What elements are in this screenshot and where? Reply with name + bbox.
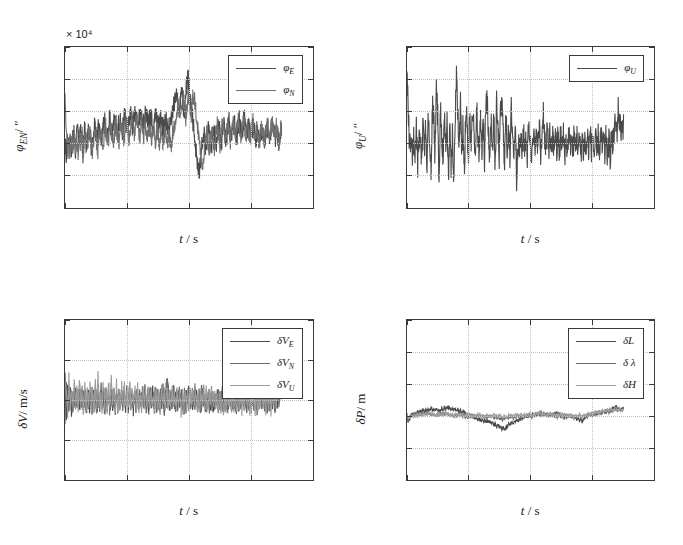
- plot-area-delta-v: δVE δVN δVU -2-1012050100150200: [64, 319, 314, 482]
- x-tick-mark: [189, 47, 190, 52]
- y-tick-mark: [65, 360, 70, 361]
- legend-item: δVU: [230, 378, 295, 393]
- gridline-vertical: [189, 320, 190, 481]
- x-axis-label: t / s: [64, 231, 314, 247]
- legend-item: φE: [236, 61, 294, 76]
- y-tick-mark: [308, 440, 313, 441]
- panel-delta-v: δV/ m/s δVE δVN δVU -2-1012050100150200: [0, 273, 342, 545]
- y-tick-mark: [649, 352, 654, 353]
- y-axis-label: φEN/ ″: [11, 121, 29, 152]
- x-tick-mark: [127, 203, 128, 208]
- x-tick-mark: [251, 203, 252, 208]
- y-tick-mark: [65, 440, 70, 441]
- x-tick-mark: [313, 320, 314, 325]
- y-tick-mark: [649, 111, 654, 112]
- y-tick-mark: [308, 143, 313, 144]
- y-tick-mark: [308, 175, 313, 176]
- y-tick-mark: [308, 111, 313, 112]
- legend-swatch-icon: [236, 90, 276, 91]
- y-axis-label: δV/ m/s: [15, 389, 33, 429]
- y-axis-label: δP/ m: [352, 393, 370, 424]
- y-axis-label: φU/ ″: [350, 123, 368, 149]
- gridline-vertical: [530, 320, 531, 481]
- x-tick-mark: [468, 203, 469, 208]
- x-tick-mark: [407, 47, 408, 52]
- legend-label: δL: [623, 334, 634, 349]
- gridline-vertical: [127, 47, 128, 208]
- y-tick-mark: [65, 175, 70, 176]
- x-tick-mark: [189, 475, 190, 480]
- x-tick-mark: [189, 203, 190, 208]
- x-tick-mark: [313, 47, 314, 52]
- legend-label: φN: [283, 83, 294, 98]
- legend-item: φN: [236, 83, 294, 98]
- legend-phi-u: φU: [569, 55, 644, 82]
- legend-label: φE: [283, 61, 294, 76]
- gridline-vertical: [468, 320, 469, 481]
- panel-delta-p: δP/ m δL δ λ δH -10-5051015050100150200: [342, 273, 683, 545]
- x-tick-mark: [407, 475, 408, 480]
- x-tick-mark: [530, 203, 531, 208]
- y-tick-mark: [65, 480, 70, 481]
- x-tick-mark: [127, 320, 128, 325]
- x-axis-label: t / s: [406, 503, 656, 519]
- legend-label: δVE: [277, 334, 294, 349]
- y-tick-mark: [407, 175, 412, 176]
- y-tick-mark: [649, 384, 654, 385]
- x-tick-mark: [592, 475, 593, 480]
- x-tick-mark: [65, 475, 66, 480]
- x-tick-mark: [251, 475, 252, 480]
- y-tick-mark: [308, 480, 313, 481]
- legend-swatch-icon: [576, 385, 616, 386]
- y-tick-mark: [407, 416, 412, 417]
- x-tick-mark: [654, 320, 655, 325]
- y-tick-mark: [649, 208, 654, 209]
- y-tick-mark: [407, 480, 412, 481]
- figure-grid: × 10⁴ φEN/ ″ φE φN -2-10123050100150200 …: [0, 0, 683, 545]
- y-tick-mark: [407, 111, 412, 112]
- x-tick-mark: [592, 203, 593, 208]
- panel-phi-u: φU/ ″ φU -200-1000100200300050100150200 …: [342, 0, 683, 273]
- x-tick-mark: [654, 47, 655, 52]
- legend-delta-p: δL δ λ δH: [568, 328, 644, 400]
- x-tick-mark: [407, 203, 408, 208]
- x-tick-mark: [530, 475, 531, 480]
- x-tick-mark: [592, 47, 593, 52]
- y-tick-mark: [65, 208, 70, 209]
- legend-label: φU: [624, 61, 636, 76]
- y-tick-mark: [407, 448, 412, 449]
- y-tick-mark: [65, 79, 70, 80]
- x-tick-mark: [592, 320, 593, 325]
- gridline-vertical: [127, 320, 128, 481]
- y-tick-mark: [407, 79, 412, 80]
- legend-item: δH: [576, 378, 636, 393]
- legend-item: δL: [576, 334, 636, 349]
- legend-swatch-icon: [577, 68, 617, 69]
- y-tick-mark: [65, 143, 70, 144]
- y-tick-mark: [65, 400, 70, 401]
- axis-multiplier: × 10⁴: [66, 28, 92, 40]
- x-tick-mark: [127, 47, 128, 52]
- legend-item: φU: [577, 61, 636, 76]
- legend-swatch-icon: [230, 363, 270, 364]
- x-axis-label: t / s: [406, 231, 656, 247]
- legend-item: δVN: [230, 356, 295, 371]
- y-tick-mark: [308, 400, 313, 401]
- x-tick-mark: [468, 47, 469, 52]
- x-tick-mark: [127, 475, 128, 480]
- legend-label: δH: [623, 378, 636, 393]
- legend-swatch-icon: [230, 385, 270, 386]
- plot-area-phi-u: φU -200-1000100200300050100150200: [406, 46, 656, 209]
- legend-phi-en: φE φN: [228, 55, 302, 104]
- legend-item: δVE: [230, 334, 295, 349]
- legend-swatch-icon: [230, 341, 270, 342]
- x-tick-mark: [251, 320, 252, 325]
- y-tick-mark: [649, 175, 654, 176]
- x-tick-mark: [189, 320, 190, 325]
- x-tick-mark: [313, 203, 314, 208]
- legend-item: δ λ: [576, 356, 636, 371]
- legend-label: δVN: [277, 356, 294, 371]
- x-tick-mark: [654, 475, 655, 480]
- legend-label: δVU: [277, 378, 295, 393]
- x-tick-mark: [468, 320, 469, 325]
